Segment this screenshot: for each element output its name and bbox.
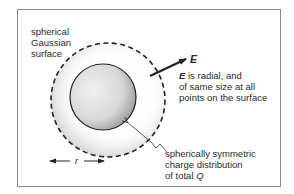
label-line: spherically symmetric (165, 148, 256, 159)
gaussian-surface-label: spherical Gaussian surface (31, 26, 71, 59)
charge-distribution-label: spherically symmetric charge distributio… (165, 148, 256, 181)
field-symbol-label: E (190, 54, 197, 65)
label-line: charge distribution (165, 159, 256, 170)
label-line: is radial, and (185, 70, 242, 81)
radius-label: r (75, 155, 78, 166)
label-line: of same size at all (179, 81, 267, 92)
label-line: of total (165, 170, 196, 181)
label-line: surface (31, 48, 71, 59)
label-line: Gaussian (31, 37, 71, 48)
field-description: E is radial, and of same size at all poi… (179, 70, 267, 103)
label-line: spherical (31, 26, 71, 37)
charge-symbol: Q (196, 170, 203, 181)
radius-symbol: r (75, 155, 78, 166)
field-symbol: E (190, 53, 197, 65)
label-line: points on the surface (179, 92, 267, 103)
